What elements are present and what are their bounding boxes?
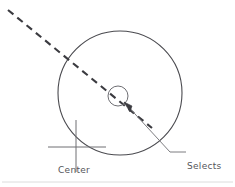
center-label: Center <box>58 165 90 176</box>
main-circle <box>58 31 182 155</box>
diagram-canvas: Center Selects center point <box>0 0 235 187</box>
leader-arrowhead <box>124 102 132 112</box>
selects-label-line-1: Selects <box>187 161 222 172</box>
selects-center-point-label: Selects center point <box>187 139 222 187</box>
